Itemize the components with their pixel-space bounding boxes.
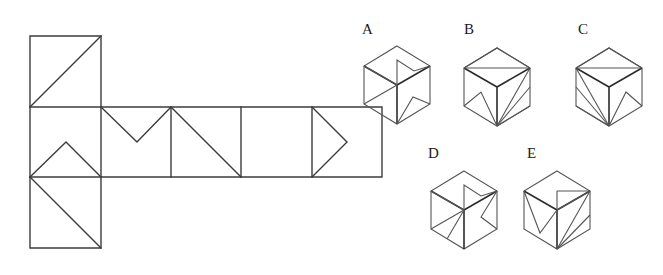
cube-a-edge-right: [397, 66, 430, 85]
cube-option-c-svg: [570, 42, 650, 132]
cube-option-e-svg: [518, 165, 598, 257]
cube-option-b[interactable]: [458, 42, 538, 132]
cube-net: [0, 0, 400, 275]
cube-e-left-mark: [524, 191, 557, 233]
cube-option-a[interactable]: [358, 40, 438, 130]
net-mark-mid3-diagonal: [171, 107, 241, 177]
cube-b-edge-left: [464, 68, 497, 87]
cube-option-a-svg: [358, 40, 438, 130]
cube-b-right-mark-3: [497, 106, 530, 126]
net-mark-bottom-diagonal: [30, 177, 101, 248]
cube-option-e[interactable]: [518, 165, 598, 257]
cube-c-edge-right: [609, 68, 642, 87]
cube-c-left-mark-3: [576, 106, 609, 126]
cube-option-b-label: B: [464, 22, 474, 37]
cube-option-b-svg: [458, 42, 538, 132]
net-mark-mid2-vee: [101, 107, 171, 142]
net-mark-top-diagonal: [30, 36, 101, 107]
net-mark-mid1-peak: [30, 142, 101, 177]
cube-b-right-mark-2: [497, 87, 530, 126]
cube-option-c[interactable]: [570, 42, 650, 132]
cube-c-left-mark-2: [576, 87, 609, 126]
cube-option-c-label: C: [578, 22, 588, 37]
cube-option-d-label: D: [428, 146, 439, 161]
cube-option-d[interactable]: [425, 165, 505, 257]
cube-a-left-mark: [364, 85, 397, 104]
cube-d-edge-right: [464, 191, 497, 210]
cube-d-right-mark: [481, 191, 497, 229]
figure-canvas: A B: [0, 0, 663, 275]
net-mark-mid4-triangle: [312, 107, 347, 177]
cube-option-e-label: E: [527, 146, 536, 161]
cube-a-right-mark: [397, 97, 430, 124]
cube-option-d-svg: [425, 165, 505, 257]
cube-b-top-mark: [464, 48, 530, 68]
cube-option-a-label: A: [362, 22, 373, 37]
cube-c-top-mark: [576, 48, 642, 68]
cube-net-svg: [0, 0, 400, 275]
cube-e-edge-left: [524, 191, 557, 210]
